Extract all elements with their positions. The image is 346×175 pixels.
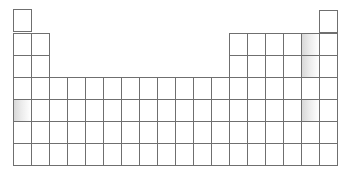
element-cell-r5-c16 — [283, 99, 302, 122]
element-cell-r4-c15 — [265, 77, 284, 100]
element-cell-r2-c16 — [283, 33, 302, 56]
element-cell-r1-c1 — [13, 9, 32, 32]
element-cell-r5-c2 — [31, 99, 50, 122]
element-cell-r7-c10 — [175, 143, 194, 166]
element-cell-r7-c13 — [229, 143, 248, 166]
element-cell-r4-c14 — [247, 77, 266, 100]
element-cell-r3-c18 — [319, 55, 338, 78]
element-cell-r5-c6 — [103, 99, 122, 122]
element-cell-r3-c2 — [31, 55, 50, 78]
element-cell-r7-c18 — [319, 143, 338, 166]
element-cell-r4-c9 — [157, 77, 176, 100]
element-cell-r7-c4 — [67, 143, 86, 166]
element-cell-r3-c17 — [301, 55, 320, 78]
element-cell-r6-c8 — [139, 121, 158, 144]
element-cell-r2-c18 — [319, 33, 338, 56]
element-cell-r6-c13 — [229, 121, 248, 144]
element-cell-r4-c6 — [103, 77, 122, 100]
element-cell-r6-c15 — [265, 121, 284, 144]
element-cell-r5-c8 — [139, 99, 158, 122]
element-cell-r4-c13 — [229, 77, 248, 100]
element-cell-r3-c1 — [13, 55, 32, 78]
element-cell-r2-c1 — [13, 33, 32, 56]
element-cell-r7-c17 — [301, 143, 320, 166]
element-cell-r5-c5 — [85, 99, 104, 122]
element-cell-r2-c13 — [229, 33, 248, 56]
element-cell-r5-c3 — [49, 99, 68, 122]
element-cell-r7-c6 — [103, 143, 122, 166]
element-cell-r4-c7 — [121, 77, 140, 100]
element-cell-r6-c11 — [193, 121, 212, 144]
element-cell-r6-c4 — [67, 121, 86, 144]
element-cell-r4-c1 — [13, 77, 32, 100]
element-cell-r7-c2 — [31, 143, 50, 166]
element-cell-r5-c10 — [175, 99, 194, 122]
element-cell-r5-c9 — [157, 99, 176, 122]
element-cell-r7-c5 — [85, 143, 104, 166]
periodic-table-grid — [0, 0, 346, 175]
element-cell-r7-c1 — [13, 143, 32, 166]
element-cell-r7-c11 — [193, 143, 212, 166]
element-cell-r4-c18 — [319, 77, 338, 100]
element-cell-r3-c16 — [283, 55, 302, 78]
element-cell-r6-c18 — [319, 121, 338, 144]
element-cell-r2-c15 — [265, 33, 284, 56]
element-cell-r4-c16 — [283, 77, 302, 100]
element-cell-r5-c14 — [247, 99, 266, 122]
element-cell-r3-c13 — [229, 55, 248, 78]
element-cell-r5-c15 — [265, 99, 284, 122]
element-cell-r5-c18 — [319, 99, 338, 122]
element-cell-r2-c17 — [301, 33, 320, 56]
element-cell-r6-c17 — [301, 121, 320, 144]
element-cell-r5-c4 — [67, 99, 86, 122]
element-cell-r5-c1 — [13, 99, 32, 122]
element-cell-r7-c16 — [283, 143, 302, 166]
element-cell-r7-c9 — [157, 143, 176, 166]
element-cell-r4-c10 — [175, 77, 194, 100]
element-cell-r4-c2 — [31, 77, 50, 100]
element-cell-r1-c18 — [319, 10, 338, 33]
element-cell-r7-c3 — [49, 143, 68, 166]
element-cell-r6-c3 — [49, 121, 68, 144]
element-cell-r3-c14 — [247, 55, 266, 78]
element-cell-r5-c11 — [193, 99, 212, 122]
element-cell-r5-c13 — [229, 99, 248, 122]
element-cell-r6-c16 — [283, 121, 302, 144]
element-cell-r7-c14 — [247, 143, 266, 166]
element-cell-r2-c14 — [247, 33, 266, 56]
element-cell-r4-c4 — [67, 77, 86, 100]
element-cell-r4-c17 — [301, 77, 320, 100]
element-cell-r6-c14 — [247, 121, 266, 144]
element-cell-r7-c7 — [121, 143, 140, 166]
element-cell-r6-c6 — [103, 121, 122, 144]
element-cell-r5-c7 — [121, 99, 140, 122]
element-cell-r5-c17 — [301, 99, 320, 122]
element-cell-r6-c10 — [175, 121, 194, 144]
element-cell-r7-c12 — [211, 143, 230, 166]
element-cell-r6-c5 — [85, 121, 104, 144]
element-cell-r2-c2 — [31, 33, 50, 56]
element-cell-r4-c8 — [139, 77, 158, 100]
element-cell-r6-c12 — [211, 121, 230, 144]
element-cell-r4-c12 — [211, 77, 230, 100]
element-cell-r3-c15 — [265, 55, 284, 78]
element-cell-r7-c8 — [139, 143, 158, 166]
element-cell-r4-c11 — [193, 77, 212, 100]
element-cell-r6-c7 — [121, 121, 140, 144]
element-cell-r5-c12 — [211, 99, 230, 122]
element-cell-r4-c3 — [49, 77, 68, 100]
element-cell-r6-c2 — [31, 121, 50, 144]
element-cell-r6-c9 — [157, 121, 176, 144]
element-cell-r4-c5 — [85, 77, 104, 100]
element-cell-r6-c1 — [13, 121, 32, 144]
element-cell-r7-c15 — [265, 143, 284, 166]
